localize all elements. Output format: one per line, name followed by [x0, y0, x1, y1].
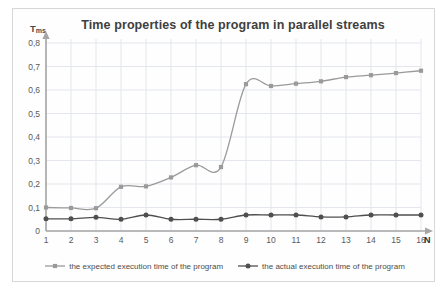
y-tick-label: 0 [35, 226, 40, 236]
legend-label: the actual execution time of the program [262, 262, 405, 271]
x-tick-label: 5 [144, 235, 149, 245]
data-point-marker [244, 82, 248, 86]
y-axis-arrow [42, 31, 49, 39]
y-tick-label: 0,7 [28, 62, 40, 72]
series-layer [44, 69, 424, 222]
y-tick-label: 0,5 [28, 109, 40, 119]
data-point-marker [319, 214, 324, 219]
data-point-marker [94, 215, 99, 220]
data-point-marker [44, 205, 48, 209]
series-line [46, 71, 421, 210]
axis-end-labels: N [424, 235, 431, 245]
legend-label: the expected execution time of the progr… [69, 262, 223, 271]
data-point-marker [269, 84, 273, 88]
x-tick-label: 4 [119, 235, 124, 245]
series-2 [44, 213, 424, 222]
x-tick-label: 10 [266, 235, 276, 245]
x-tick-label: 1 [44, 235, 49, 245]
data-point-marker [119, 185, 123, 189]
x-tick-label: 13 [341, 235, 351, 245]
x-axis-arrow [425, 227, 433, 234]
data-point-marker [394, 71, 398, 75]
y-tick-label: 0,8 [28, 38, 40, 48]
data-point-marker [219, 165, 223, 169]
gridlines [46, 39, 421, 231]
y-tick-label: 0,3 [28, 156, 40, 166]
x-tick-label: 6 [169, 235, 174, 245]
data-point-marker [294, 82, 298, 86]
data-point-marker [44, 216, 49, 221]
data-point-marker [394, 213, 399, 218]
legend-marker-square [44, 261, 66, 271]
x-axis-end-label: N [424, 235, 431, 245]
data-point-marker [319, 79, 323, 83]
data-point-marker [244, 213, 249, 218]
y-tick-labels: 00,10,20,30,40,50,60,70,8 [28, 38, 40, 236]
chart-plot-area: 00,10,20,30,40,50,60,70,8 12345678910111… [13, 9, 436, 259]
x-tick-label: 14 [366, 235, 376, 245]
data-point-marker [144, 213, 149, 218]
data-point-marker [169, 217, 174, 222]
x-tick-label: 7 [194, 235, 199, 245]
data-point-marker [344, 214, 349, 219]
x-tick-label: 9 [244, 235, 249, 245]
y-tick-label: 0,6 [28, 85, 40, 95]
x-tick-label: 8 [219, 235, 224, 245]
legend-marker-circle [237, 261, 259, 271]
x-tick-label: 12 [316, 235, 326, 245]
x-tick-label: 11 [292, 235, 301, 245]
data-point-marker [219, 217, 224, 222]
data-point-marker [369, 213, 374, 218]
x-tick-label: 2 [69, 235, 74, 245]
data-point-marker [144, 184, 148, 188]
series-line [46, 215, 421, 220]
data-point-marker [94, 206, 98, 210]
chart-legend: the expected execution time of the progr… [13, 261, 436, 271]
data-point-marker [269, 213, 274, 218]
x-tick-labels: 12345678910111213141516 [44, 235, 426, 245]
data-point-marker [419, 69, 423, 73]
y-tick-label: 0,2 [28, 179, 40, 189]
legend-entry-1[interactable]: the expected execution time of the progr… [44, 261, 223, 271]
x-tick-label: 15 [391, 235, 401, 245]
data-point-marker [294, 213, 299, 218]
y-tick-label: 0,1 [28, 203, 40, 213]
data-point-marker [369, 73, 373, 77]
chart-card: Time properties of the program in parall… [12, 8, 435, 282]
data-point-marker [69, 206, 73, 210]
data-point-marker [119, 217, 124, 222]
data-point-marker [169, 175, 173, 179]
y-tick-label: 0,4 [28, 132, 40, 142]
data-point-marker [69, 216, 74, 221]
data-point-marker [194, 217, 199, 222]
data-point-marker [344, 75, 348, 79]
x-tick-label: 3 [94, 235, 99, 245]
data-point-marker [194, 163, 198, 167]
legend-entry-2[interactable]: the actual execution time of the program [237, 261, 405, 271]
data-point-marker [419, 213, 424, 218]
